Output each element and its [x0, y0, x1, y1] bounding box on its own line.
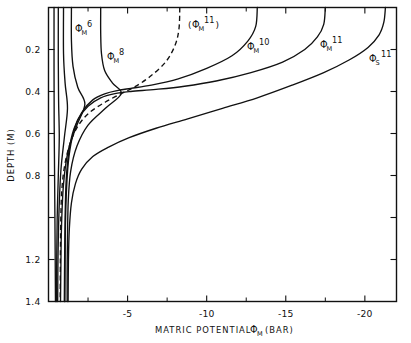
data-curves [54, 8, 385, 302]
label-phiS11-superscript: 11 [381, 49, 391, 59]
label-phiM8-superscript: 8 [119, 47, 124, 57]
label-phiM11d-close-paren: ) [216, 20, 220, 30]
matric-potential-depth-chart: 0.20.40.60.81.21.4 -5-10-15-20 ΦM6ΦM8(ΦM… [0, 0, 411, 343]
label-phiM10: ΦM10 [247, 37, 269, 55]
x-ticklabel-neg15: -15 [278, 308, 294, 319]
curve-labels: ΦM6ΦM8(ΦM11)ΦM10ΦM11ΦS11 [75, 15, 391, 67]
y-ticklabel-1.4: 1.4 [25, 296, 40, 307]
label-phiM10-superscript: 10 [259, 37, 269, 47]
x-axis-title-subscript: M [257, 330, 263, 338]
curve-phiM11 [65, 8, 325, 302]
x-axis-ticklabels: -5-10-15-20 [123, 308, 373, 319]
label-phiM11-superscript: 11 [332, 35, 342, 45]
y-ticklabel-0.2: 0.2 [25, 44, 40, 55]
label-phiM11d-subscript: M [198, 25, 204, 33]
y-axis-title: DEPTH (M) [6, 128, 16, 182]
label-phiM11: ΦM11 [320, 35, 342, 53]
label-phiM6-subscript: M [81, 29, 87, 37]
label-phiM11-subscript: M [326, 45, 332, 53]
label-phiS11: ΦS11 [369, 49, 391, 67]
label-phiM11d-open-paren: ( [188, 20, 192, 30]
x-axis-title-main: MATRIC POTENTIAL [155, 325, 252, 335]
y-ticklabel-1.2: 1.2 [25, 254, 40, 265]
curve-phiM10 [64, 8, 257, 302]
y-axis-ticklabels: 0.20.40.60.81.21.4 [25, 44, 40, 307]
curve-run-a [54, 8, 55, 302]
x-axis-title: MATRIC POTENTIAL Φ M (BAR) [155, 324, 294, 338]
x-ticklabel-neg5: -5 [123, 308, 133, 319]
curve-phiS11 [68, 8, 385, 302]
x-ticklabel-neg10: -10 [199, 308, 215, 319]
label-phiS11-subscript: S [375, 59, 379, 67]
y-ticklabel-0.8: 0.8 [25, 170, 40, 181]
x-ticklabel-neg20: -20 [357, 308, 373, 319]
label-phiM6-superscript: 6 [87, 19, 92, 29]
label-phiM8-subscript: M [113, 57, 119, 65]
label-phiM6: ΦM6 [75, 19, 92, 37]
y-ticklabel-0.6: 0.6 [25, 128, 40, 139]
label-phiM11d: (ΦM11) [188, 15, 219, 33]
label-phiM10-subscript: M [253, 47, 259, 55]
y-ticklabel-0.4: 0.4 [25, 86, 40, 97]
label-phiM8: ΦM8 [107, 47, 124, 65]
x-axis-title-unit: (BAR) [265, 325, 294, 335]
label-phiM11d-superscript: 11 [204, 15, 214, 25]
chart-figure: 0.20.40.60.81.21.4 -5-10-15-20 ΦM6ΦM8(ΦM… [0, 0, 411, 343]
